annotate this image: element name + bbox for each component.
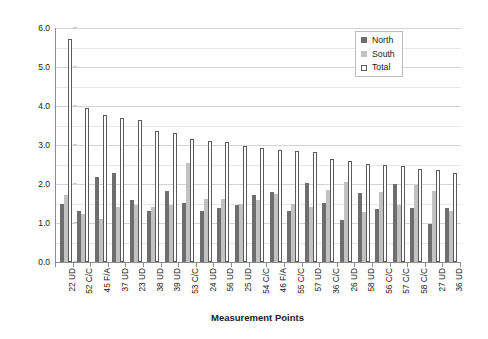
x-axis-tick-label: 36 UD <box>455 268 463 292</box>
bar-total <box>401 166 405 262</box>
bar-group <box>197 28 215 262</box>
x-axis-label-cell: 57 UD <box>302 268 320 308</box>
bar-total <box>225 142 229 262</box>
bar-total <box>313 152 317 262</box>
x-axis-tick-mark <box>249 263 250 267</box>
x-axis-tick-mark <box>425 263 426 267</box>
y-axis-tick-label: 4.0 <box>22 102 50 111</box>
bar-group <box>127 28 145 262</box>
bar-total <box>330 159 334 262</box>
legend-swatch-total-icon <box>361 65 367 71</box>
x-axis-label-cell: 54 C/C <box>249 268 267 308</box>
legend-swatch-north-icon <box>361 37 367 43</box>
bar-total <box>173 133 177 262</box>
bar-group <box>57 28 75 262</box>
x-axis-tick-labels: 22 UD52 C/C45 F/A37 UD23 UD38 UD39 UD53 … <box>55 268 460 308</box>
bar-group <box>442 28 460 262</box>
y-axis-tick-label: 2.0 <box>22 180 50 189</box>
bar-group <box>232 28 250 262</box>
x-axis-tick-mark <box>460 263 461 267</box>
x-axis-tick-mark <box>73 263 74 267</box>
x-axis-tick-mark <box>231 263 232 267</box>
bar-total <box>103 115 107 262</box>
x-axis-tick-mark <box>55 263 56 267</box>
x-axis-label-cell: 53 C/C <box>178 268 196 308</box>
bar-group <box>180 28 198 262</box>
x-axis-label-cell: 23 UD <box>125 268 143 308</box>
bar-chart: Variation (6σ, mm) 0.01.02.03.04.05.06.0… <box>0 0 488 339</box>
x-axis-label-cell: 56 C/C <box>372 268 390 308</box>
x-axis-title: Measurement Points <box>55 312 460 323</box>
bar-group <box>337 28 355 262</box>
x-axis-tick-marks <box>55 263 460 267</box>
x-axis-label-cell: 36 C/C <box>319 268 337 308</box>
x-axis-tick-mark <box>90 263 91 267</box>
bar-group <box>407 28 425 262</box>
x-axis-tick-mark <box>442 263 443 267</box>
y-axis-tick-label: 5.0 <box>22 63 50 72</box>
x-axis-tick-mark <box>266 263 267 267</box>
bar-group <box>145 28 163 262</box>
x-axis-tick-mark <box>108 263 109 267</box>
x-axis-label-cell: 22 UD <box>55 268 73 308</box>
legend-label: North <box>372 36 393 45</box>
chart-legend: NorthSouthTotal <box>355 31 403 77</box>
bar-total <box>383 165 387 262</box>
x-axis-tick-mark <box>302 263 303 267</box>
x-axis-label-cell: 26 UD <box>337 268 355 308</box>
legend-item-total: Total <box>361 63 395 72</box>
bar-total <box>418 169 422 262</box>
x-axis-label-cell: 38 UD <box>143 268 161 308</box>
x-axis-label-cell: 24 UD <box>196 268 214 308</box>
bar-total <box>348 161 352 262</box>
bar-group <box>110 28 128 262</box>
legend-item-north: North <box>361 36 395 45</box>
x-axis-label-cell: 39 UD <box>161 268 179 308</box>
x-axis-label-cell: 36 UD <box>442 268 460 308</box>
x-axis-tick-mark <box>319 263 320 267</box>
bar-total <box>453 173 457 262</box>
bar-total <box>138 120 142 262</box>
x-axis-label-cell: 27 UD <box>425 268 443 308</box>
bar-group <box>267 28 285 262</box>
x-axis-tick-mark <box>178 263 179 267</box>
bar-total <box>155 131 159 262</box>
x-axis-tick-mark <box>284 263 285 267</box>
x-axis-tick-mark <box>125 263 126 267</box>
x-axis-label-cell: 52 C/C <box>73 268 91 308</box>
bar-total <box>190 139 194 262</box>
bar-group <box>425 28 443 262</box>
x-axis-tick-mark <box>161 263 162 267</box>
x-axis-label-cell: 46 F/A <box>266 268 284 308</box>
y-axis-tick-labels: 0.01.02.03.04.05.06.0 <box>22 21 50 269</box>
bar-total <box>260 148 264 262</box>
x-axis-label-cell: 45 F/A <box>90 268 108 308</box>
bar-total <box>278 150 282 262</box>
bar-group <box>162 28 180 262</box>
x-axis-tick-mark <box>407 263 408 267</box>
bar-total <box>85 108 89 262</box>
x-axis-label-cell: 25 UD <box>231 268 249 308</box>
y-axis-tick-label: 3.0 <box>22 141 50 150</box>
legend-item-south: South <box>361 50 395 59</box>
x-axis-tick-mark <box>372 263 373 267</box>
bar-group <box>302 28 320 262</box>
x-axis-label-cell: 58 C/C <box>407 268 425 308</box>
bar-total <box>243 146 247 262</box>
y-axis-tick-label: 1.0 <box>22 219 50 228</box>
x-axis-label-cell: 37 UD <box>108 268 126 308</box>
bar-group <box>285 28 303 262</box>
x-axis-tick-mark <box>213 263 214 267</box>
bar-total <box>68 39 72 262</box>
bar-group <box>92 28 110 262</box>
legend-label: Total <box>372 63 390 72</box>
x-axis-tick-mark <box>143 263 144 267</box>
y-axis-tick-label: 0.0 <box>22 258 50 267</box>
x-axis-label-cell: 55 C/C <box>284 268 302 308</box>
bar-total <box>366 164 370 262</box>
x-axis-tick-mark <box>196 263 197 267</box>
bar-total <box>120 118 124 262</box>
bar-total <box>208 141 212 262</box>
x-axis-label-cell: 58 UD <box>354 268 372 308</box>
y-axis-tick-label: 6.0 <box>22 24 50 33</box>
